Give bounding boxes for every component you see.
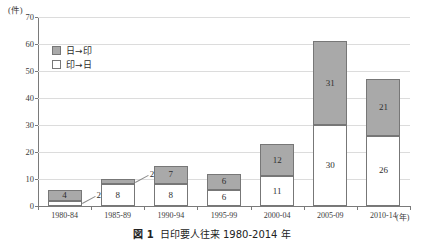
bar-segment-nichi-in: 31	[313, 41, 347, 125]
callout-label-in-nichi: 2	[97, 190, 102, 200]
y-tick-mark-10	[35, 179, 38, 180]
bar-value-label: 7	[169, 170, 174, 179]
bar-value-label: 30	[326, 161, 335, 170]
bar-value-label: 4	[62, 191, 67, 200]
x-tick-mark	[410, 206, 411, 210]
x-tick-mark	[251, 206, 252, 210]
bar-segment-in-nichi: 26	[366, 136, 400, 206]
x-tick-mark	[144, 206, 145, 210]
bar-segment-nichi-in: 4	[48, 190, 82, 201]
x-tick-mark	[357, 206, 358, 210]
x-tick-label-2005-09: 2005-09	[317, 211, 344, 220]
bar-segment-in-nichi: 30	[313, 125, 347, 206]
legend-label-in-nichi: 印→日	[66, 58, 92, 71]
x-tick-mark	[91, 206, 92, 210]
legend-item-in-nichi: 印→日	[52, 58, 92, 70]
bar-value-label: 6	[222, 193, 227, 202]
bar-value-label: 21	[379, 103, 388, 112]
y-tick-label-20: 20	[26, 147, 35, 157]
bar-value-label: 12	[273, 156, 282, 165]
bar-value-label: 31	[326, 79, 335, 88]
y-tick-label-70: 70	[26, 12, 35, 22]
gridline-50: 50	[38, 71, 410, 72]
bar-segment-in-nichi: 11	[260, 176, 294, 206]
x-tick-label-1995-99: 1995-99	[211, 211, 238, 220]
bar-segment-in-nichi: 8	[154, 184, 188, 206]
bar-segment-nichi-in: 7	[154, 166, 188, 185]
bar-segment-in-nichi: 8	[101, 184, 135, 206]
x-tick-mark	[304, 206, 305, 210]
y-tick-mark-60	[35, 44, 38, 45]
x-tick-label-1980-84: 1980-84	[51, 211, 78, 220]
figure-caption: 図 1日印要人往来 1980-2014 年	[0, 226, 424, 241]
gridline-30: 30	[38, 125, 410, 126]
bar-segment-in-nichi: 6	[207, 190, 241, 206]
bar-segment-nichi-in: 6	[207, 174, 241, 190]
y-axis-line	[38, 17, 39, 206]
x-axis-unit-label: (年)	[396, 211, 409, 222]
legend-item-nichi-in: 日→印	[52, 44, 92, 56]
y-tick-label-40: 40	[26, 93, 35, 103]
x-tick-label-2000-04: 2000-04	[264, 211, 291, 220]
bar-value-label: 26	[379, 166, 388, 175]
chart-legend: 日→印 印→日	[52, 44, 92, 72]
plot-area: 010203040506070 24828766111230312621 22	[38, 17, 410, 206]
callout-leader-line	[82, 196, 95, 204]
y-tick-mark-30	[35, 125, 38, 126]
figure-container: (件) 010203040506070 24828766111230312621…	[0, 0, 424, 243]
figure-caption-text: 日印要人往来 1980-2014 年	[160, 229, 291, 240]
x-tick-mark	[197, 206, 198, 210]
y-tick-mark-40	[35, 98, 38, 99]
figure-number: 図 1	[133, 229, 153, 240]
y-tick-mark-50	[35, 71, 38, 72]
y-tick-mark-70	[35, 17, 38, 18]
x-axis-line	[38, 206, 410, 207]
y-tick-label-50: 50	[26, 66, 35, 76]
bar-segment-nichi-in: 12	[260, 144, 294, 176]
gridline-70: 70	[38, 17, 410, 18]
y-tick-label-10: 10	[26, 174, 35, 184]
legend-swatch-hollow-icon	[52, 60, 61, 69]
gridline-40: 40	[38, 98, 410, 99]
gridline-20: 20	[38, 152, 410, 153]
bar-value-label: 8	[115, 191, 120, 200]
legend-label-nichi-in: 日→印	[66, 44, 92, 57]
y-tick-label-60: 60	[26, 39, 35, 49]
y-axis-unit-label: (件)	[8, 3, 23, 15]
y-tick-label-0: 0	[30, 201, 34, 211]
bar-segment-nichi-in: 21	[366, 79, 400, 136]
y-tick-label-30: 30	[26, 120, 35, 130]
gridline-60: 60	[38, 44, 410, 45]
callout-label-nichi-in: 2	[150, 169, 155, 179]
bar-value-label: 6	[222, 177, 227, 186]
bar-value-label: 11	[273, 187, 282, 196]
y-tick-mark-20	[35, 152, 38, 153]
legend-swatch-filled-icon	[52, 46, 61, 55]
bar-segment-nichi-in: 2	[101, 179, 135, 184]
x-tick-label-1985-89: 1985-89	[104, 211, 131, 220]
x-tick-label-2010-14: 2010-14	[370, 211, 397, 220]
x-tick-label-1990-94: 1990-94	[158, 211, 185, 220]
bar-value-label: 8	[169, 191, 174, 200]
x-tick-mark	[38, 206, 39, 210]
